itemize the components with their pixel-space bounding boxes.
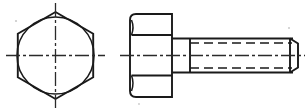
- scan-speck: [138, 103, 140, 105]
- technical-drawing-canvas: [0, 0, 307, 111]
- scan-speck: [288, 27, 290, 29]
- scan-artifacts: [15, 20, 290, 105]
- head-chamfer-arc-lower: [132, 76, 134, 92]
- end-view-group: [6, 3, 105, 108]
- side-view-group: [120, 14, 305, 97]
- head-chamfer-arc-upper: [132, 20, 134, 35]
- hex-bolt-drawing: [0, 0, 307, 111]
- scan-speck: [15, 20, 17, 22]
